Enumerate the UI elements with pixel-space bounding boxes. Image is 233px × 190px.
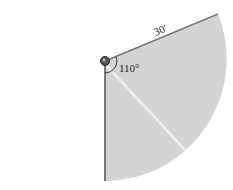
sector-area	[105, 14, 227, 181]
angle-label: 110°	[119, 62, 140, 74]
sector-diagram: 110° 30′	[0, 0, 233, 190]
